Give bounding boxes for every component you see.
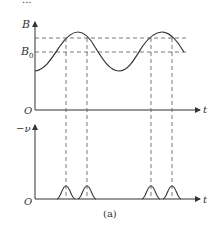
upper-origin-label: O (24, 105, 32, 116)
b0-label: B 0 (20, 45, 33, 60)
svg-text:0: 0 (29, 52, 33, 60)
lower-plot: −ν O t (16, 123, 208, 207)
upper-x-axis-label: t (203, 104, 208, 115)
vertical-connectors (66, 38, 172, 199)
lower-origin-label: O (24, 196, 32, 207)
lower-x-axis-label: t (203, 194, 208, 205)
upper-plot: B O t B 0 (20, 18, 208, 116)
diagram-canvas: ... B O t B 0 −ν O t (0, 0, 219, 229)
top-text-fragment: ... (22, 0, 32, 5)
upper-y-axis-label: B (21, 18, 30, 31)
svg-text:B: B (20, 45, 29, 58)
figure-caption: (a) (103, 208, 117, 219)
svg-text:...: ... (22, 0, 32, 5)
lower-y-axis-label: −ν (16, 123, 30, 134)
